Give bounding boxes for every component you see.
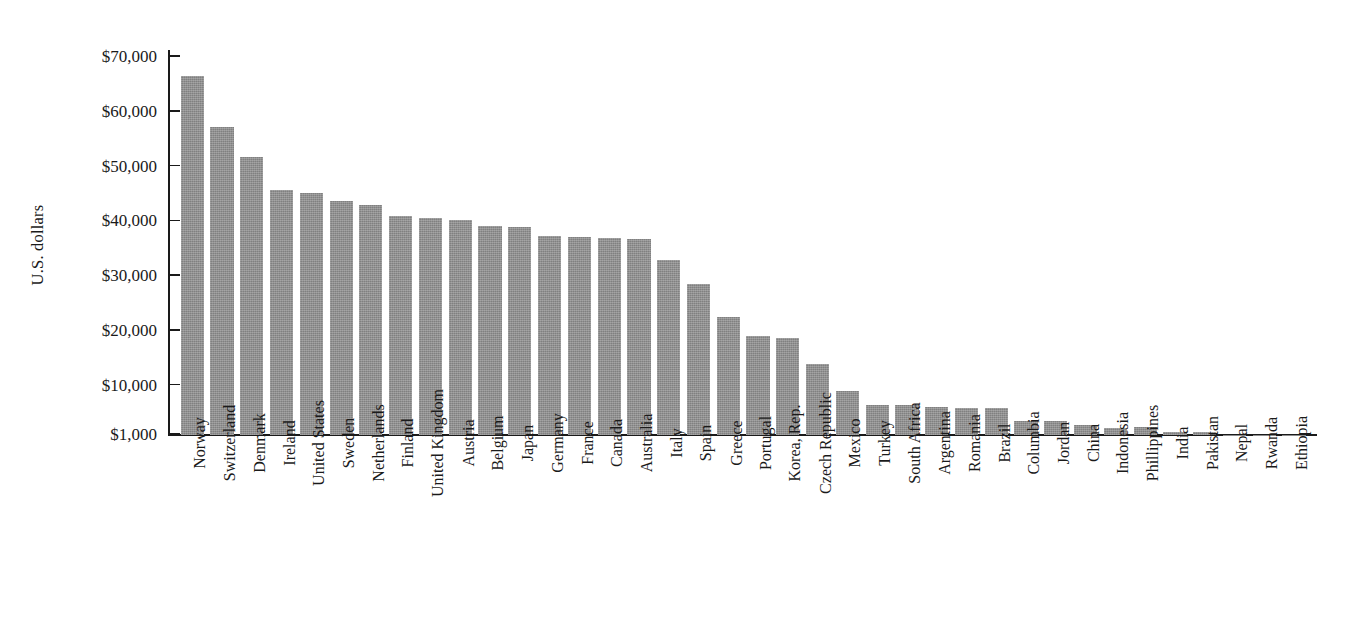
- bar[interactable]: [359, 205, 382, 435]
- x-axis-label-text: Romania: [966, 414, 982, 472]
- bar-slot: [743, 50, 773, 435]
- bar-slot: [1041, 50, 1071, 435]
- bar-slot: [654, 50, 684, 435]
- bar-slot: [713, 50, 743, 435]
- x-axis-label-text: Ethiopia: [1294, 416, 1310, 470]
- x-axis-label: Mexico: [832, 441, 862, 461]
- x-axis-label-text: Switzerland: [222, 405, 238, 481]
- x-axis-label: Jordan: [1041, 441, 1071, 461]
- x-axis-label: United States: [296, 441, 326, 461]
- bar-chart: U.S. dollars $70,000$60,000$50,000$40,00…: [0, 0, 1365, 621]
- x-axis-label-text: Mexico: [847, 419, 863, 468]
- bar-slot: [1249, 50, 1279, 435]
- x-axis-label-text: Austria: [460, 419, 476, 466]
- x-axis-label: Portugal: [743, 441, 773, 461]
- x-axis-label-text: Belgium: [490, 415, 506, 470]
- bar-slot: [981, 50, 1011, 435]
- x-axis-label: Japan: [505, 441, 535, 461]
- bar-slot: [475, 50, 505, 435]
- x-axis-label: Phillippines: [1130, 441, 1160, 461]
- x-axis-label-text: Phillippines: [1145, 405, 1161, 481]
- y-axis-tick-label: $20,000: [102, 321, 157, 338]
- x-axis-label: Sweden: [326, 441, 356, 461]
- x-axis-label: Spain: [684, 441, 714, 461]
- y-axis-tick-label: $40,000: [102, 212, 157, 229]
- bar-slot: [445, 50, 475, 435]
- x-axis-label-text: Nepal: [1234, 424, 1250, 462]
- bar-slot: [684, 50, 714, 435]
- x-axis-label-text: Jordan: [1056, 422, 1072, 465]
- x-axis-label-text: Brazil: [996, 423, 1012, 462]
- bar[interactable]: [627, 239, 650, 435]
- x-axis-label-text: Pakistan: [1205, 416, 1221, 470]
- bar-slot: [1101, 50, 1131, 435]
- bar[interactable]: [330, 201, 353, 435]
- bar[interactable]: [568, 237, 591, 435]
- bar-slot: [862, 50, 892, 435]
- x-axis-label: Greece: [713, 441, 743, 461]
- x-axis-label-text: Indonesia: [1115, 412, 1131, 474]
- bar[interactable]: [598, 238, 621, 435]
- bar[interactable]: [449, 220, 472, 435]
- bar[interactable]: [181, 76, 204, 435]
- bar-slot: [177, 50, 207, 435]
- bar-slot: [773, 50, 803, 435]
- y-axis-tick-label: $70,000: [102, 48, 157, 65]
- y-axis-title-label: U.S. dollars: [28, 205, 48, 286]
- bar-slot: [505, 50, 535, 435]
- x-axis-label: Columbia: [1011, 441, 1041, 461]
- bar[interactable]: [687, 284, 710, 435]
- bar[interactable]: [717, 317, 740, 435]
- bar-slot: [1220, 50, 1250, 435]
- x-axis-label-text: Australia: [639, 414, 655, 473]
- x-axis-label-text: Turkey: [877, 420, 893, 466]
- x-axis-label-text: Greece: [728, 420, 744, 465]
- y-axis-title: U.S. dollars: [18, 175, 58, 315]
- x-axis-label: Switzerland: [207, 441, 237, 461]
- bar[interactable]: [478, 226, 501, 435]
- x-axis-label: Pakistan: [1190, 441, 1220, 461]
- plot-area: [169, 50, 1317, 435]
- bar-slot: [267, 50, 297, 435]
- bar[interactable]: [240, 157, 263, 435]
- x-axis-label-text: Korea, Rep.: [788, 405, 804, 482]
- x-axis-label: United Kingdom: [416, 441, 446, 461]
- bar[interactable]: [300, 193, 323, 435]
- x-axis-label-text: Norway: [192, 417, 208, 469]
- x-axis-label: India: [1160, 441, 1190, 461]
- y-axis-tick-label: $60,000: [102, 102, 157, 119]
- x-axis-label: China: [1071, 441, 1101, 461]
- bar-slot: [952, 50, 982, 435]
- bar-slot: [832, 50, 862, 435]
- bar[interactable]: [538, 236, 561, 435]
- x-axis-label-text: United Kingdom: [430, 389, 446, 497]
- x-axis-label: Netherlands: [356, 441, 386, 461]
- bar[interactable]: [657, 260, 680, 435]
- x-axis-label: Denmark: [237, 441, 267, 461]
- x-axis-label-text: South Africa: [907, 402, 923, 483]
- x-axis-label-text: India: [1175, 427, 1191, 460]
- x-axis-label-text: Japan: [520, 425, 536, 461]
- bar-slot: [207, 50, 237, 435]
- x-axis-label-text: Canada: [609, 419, 625, 467]
- bar-slot: [594, 50, 624, 435]
- bar[interactable]: [389, 216, 412, 435]
- x-axis-label: Canada: [594, 441, 624, 461]
- x-axis-label: Indonesia: [1101, 441, 1131, 461]
- bar-slot: [564, 50, 594, 435]
- bar-slot: [624, 50, 654, 435]
- bar[interactable]: [210, 127, 233, 435]
- bar[interactable]: [270, 190, 293, 435]
- bar[interactable]: [508, 227, 531, 435]
- x-axis-label-text: Finland: [401, 419, 417, 468]
- bar-slot: [803, 50, 833, 435]
- bar-slot: [1071, 50, 1101, 435]
- x-axis-label-text: Denmark: [252, 413, 268, 473]
- bar-slot: [1190, 50, 1220, 435]
- x-axis-label: Belgium: [475, 441, 505, 461]
- x-axis-label: Italy: [654, 441, 684, 461]
- x-axis-label-text: Czech Republic: [818, 392, 834, 494]
- x-axis-label: Norway: [177, 441, 207, 461]
- x-axis-label: Turkey: [862, 441, 892, 461]
- x-axis-label-text: Portugal: [758, 416, 774, 470]
